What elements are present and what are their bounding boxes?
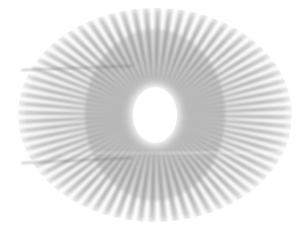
test-pattern-canvas	[0, 0, 308, 235]
central-blank-ellipse	[133, 87, 177, 143]
siemens-star-figure	[0, 0, 308, 235]
